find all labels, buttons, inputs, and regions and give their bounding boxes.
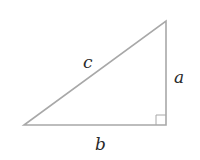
label-leg-b: b: [95, 134, 106, 154]
right-triangle-diagram: c a b: [0, 0, 200, 160]
right-angle-marker: [156, 115, 166, 125]
triangle: [24, 21, 166, 125]
label-hypotenuse-c: c: [83, 52, 93, 72]
label-leg-a: a: [174, 67, 184, 87]
